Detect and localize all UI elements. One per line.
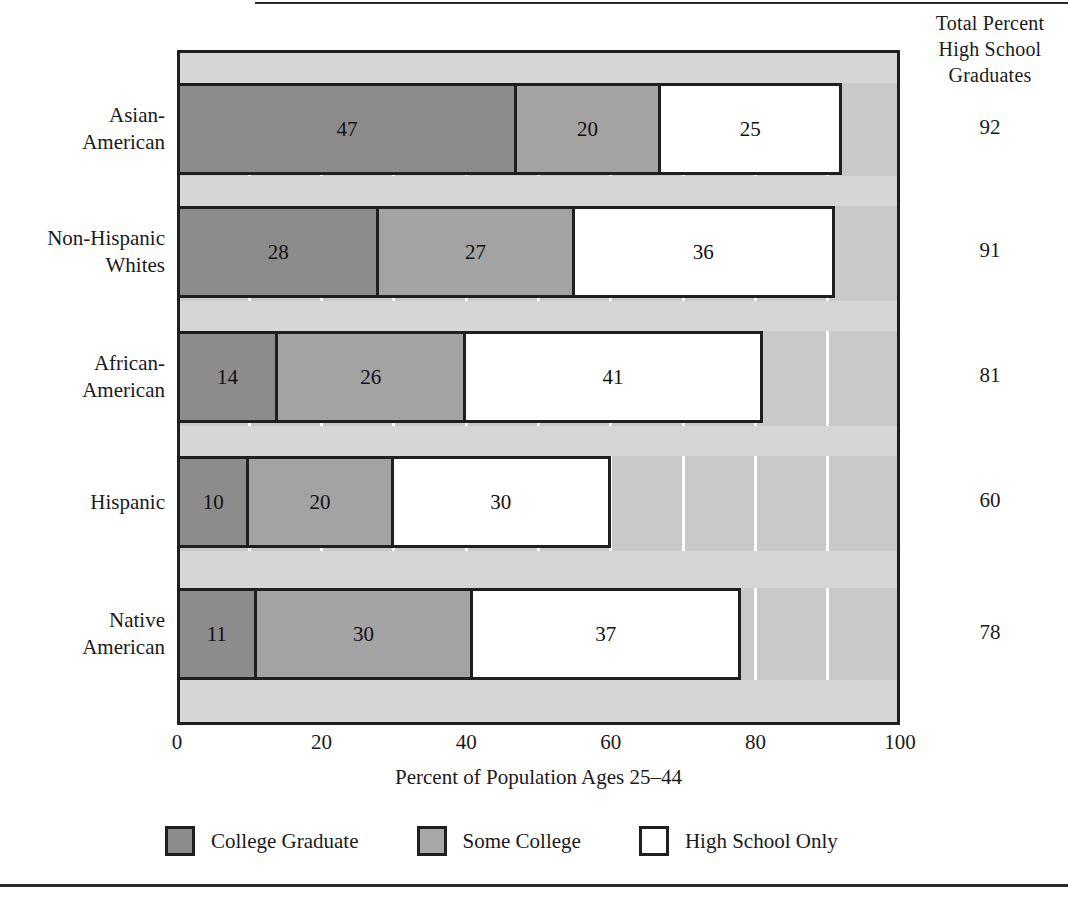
legend-label: High School Only — [685, 829, 838, 854]
bar-segment-value: 26 — [360, 365, 381, 390]
bar-segment-hs: 36 — [572, 206, 835, 298]
bar-segment-value: 25 — [740, 117, 761, 142]
category-label-line-2: American — [0, 634, 165, 661]
x-tick-label: 40 — [426, 730, 506, 755]
bar-segment-hs: 30 — [391, 456, 611, 548]
top-divider-rule — [255, 2, 1068, 4]
category-label-line-1: African- — [0, 350, 165, 377]
category-label: Non-HispanicWhites — [0, 225, 165, 279]
total-header-line-2: High School — [912, 36, 1068, 62]
category-label-line-2: American — [0, 377, 165, 404]
legend-item: High School Only — [639, 826, 838, 856]
x-tick-label: 80 — [715, 730, 795, 755]
category-label: African-American — [0, 350, 165, 404]
x-tick-label: 100 — [860, 730, 940, 755]
bottom-divider-rule — [0, 884, 1068, 887]
row-gap-band — [180, 426, 897, 456]
bar-segment-value: 36 — [693, 240, 714, 265]
bar-segment-value: 11 — [207, 622, 227, 647]
category-label: Hispanic — [0, 489, 165, 516]
category-label-line-1: Non-Hispanic — [0, 225, 165, 252]
bar-segment-some: 20 — [246, 456, 394, 548]
bar-segment-hs: 25 — [658, 83, 842, 175]
bar-segment-college: 14 — [177, 331, 278, 423]
x-axis-title: Percent of Population Ages 25–44 — [177, 765, 900, 790]
bar-segment-value: 14 — [217, 365, 238, 390]
bar-segment-college: 10 — [177, 456, 249, 548]
x-tick-label: 20 — [282, 730, 362, 755]
row-gap-band — [180, 551, 897, 588]
bar-row: 113037 — [177, 588, 741, 680]
total-percent-value: 92 — [912, 115, 1068, 140]
row-gap-band — [180, 53, 897, 83]
bar-segment-value: 27 — [465, 240, 486, 265]
bar-segment-college: 47 — [177, 83, 517, 175]
category-label-line-1: Asian- — [0, 102, 165, 129]
category-label: NativeAmerican — [0, 607, 165, 661]
bar-segment-value: 37 — [595, 622, 616, 647]
category-label-line-1: Native — [0, 607, 165, 634]
x-tick-label: 60 — [571, 730, 651, 755]
bar-segment-value: 28 — [268, 240, 289, 265]
chart-legend: College GraduateSome CollegeHigh School … — [165, 826, 838, 856]
bar-segment-college: 11 — [177, 588, 257, 680]
row-gap-band — [180, 680, 897, 722]
x-tick-label: 0 — [137, 730, 217, 755]
bar-segment-some: 27 — [376, 206, 574, 298]
bar-segment-hs: 41 — [463, 331, 762, 423]
legend-label: College Graduate — [211, 829, 359, 854]
bar-segment-some: 26 — [275, 331, 466, 423]
category-label: Asian-American — [0, 102, 165, 156]
bar-segment-value: 41 — [602, 365, 623, 390]
total-percent-header: Total Percent High School Graduates — [912, 10, 1068, 88]
total-percent-value: 60 — [912, 488, 1068, 513]
row-gap-band — [180, 301, 897, 331]
bar-segment-value: 30 — [353, 622, 374, 647]
legend-item: College Graduate — [165, 826, 417, 856]
legend-swatch-white — [639, 826, 669, 856]
bar-segment-value: 30 — [490, 490, 511, 515]
bar-row: 102030 — [177, 456, 611, 548]
total-header-line-3: Graduates — [912, 62, 1068, 88]
category-label-line-2: Whites — [0, 252, 165, 279]
legend-item: Some College — [417, 826, 639, 856]
total-percent-value: 81 — [912, 363, 1068, 388]
total-percent-value: 78 — [912, 620, 1068, 645]
bar-segment-some: 20 — [514, 83, 662, 175]
bar-row: 472025 — [177, 83, 842, 175]
bar-segment-college: 28 — [177, 206, 379, 298]
legend-swatch-medium-gray — [417, 826, 447, 856]
category-label-line-1: Hispanic — [0, 489, 165, 516]
bar-segment-value: 20 — [577, 117, 598, 142]
legend-swatch-dark-gray — [165, 826, 195, 856]
bar-row: 142641 — [177, 331, 763, 423]
bar-segment-some: 30 — [254, 588, 474, 680]
category-label-line-2: American — [0, 129, 165, 156]
legend-label: Some College — [463, 829, 581, 854]
total-percent-value: 91 — [912, 238, 1068, 263]
total-header-line-1: Total Percent — [912, 10, 1068, 36]
bar-segment-value: 47 — [336, 117, 357, 142]
bar-row: 282736 — [177, 206, 835, 298]
bar-segment-value: 10 — [203, 490, 224, 515]
row-gap-band — [180, 176, 897, 206]
bar-segment-value: 20 — [310, 490, 331, 515]
bar-segment-hs: 37 — [470, 588, 741, 680]
